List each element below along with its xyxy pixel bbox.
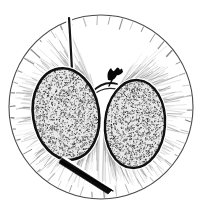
botanical-illustration: Stippled seed pair within circular field: [0, 0, 202, 215]
figure-canvas: [0, 0, 202, 215]
upper-stem: [69, 18, 72, 70]
